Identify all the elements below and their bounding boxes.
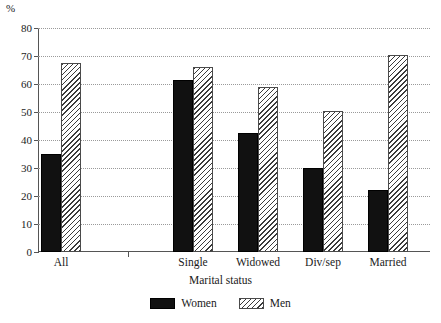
bar-married-women bbox=[368, 190, 388, 252]
y-axis-tick-mark bbox=[34, 28, 38, 29]
gridline bbox=[38, 28, 430, 30]
x-axis-label-all: All bbox=[54, 256, 69, 269]
gridline bbox=[38, 140, 430, 142]
y-axis-tick-label: 30 bbox=[21, 163, 32, 174]
y-axis-tick-label: 10 bbox=[21, 219, 32, 230]
legend-label-women: Women bbox=[181, 297, 216, 310]
y-axis-tick-label: 0 bbox=[27, 247, 33, 258]
y-axis-tick-mark bbox=[34, 252, 38, 253]
group-separator-tick bbox=[128, 252, 129, 257]
y-axis-tick-mark bbox=[34, 56, 38, 57]
bar-all-men bbox=[61, 63, 81, 252]
y-axis-unit-label: % bbox=[6, 2, 15, 14]
bar-single-women bbox=[173, 80, 193, 252]
x-axis-label-married: Married bbox=[369, 256, 406, 269]
y-axis-tick-mark bbox=[34, 140, 38, 141]
bar-all-women bbox=[41, 154, 61, 252]
bar-single-men bbox=[193, 67, 213, 252]
y-axis-tick-mark bbox=[34, 84, 38, 85]
bar-div-sep-women bbox=[303, 168, 323, 252]
gridline bbox=[38, 56, 430, 58]
x-axis-label-widowed: Widowed bbox=[236, 256, 280, 269]
y-axis-tick-mark bbox=[34, 168, 38, 169]
legend-item-men: Men bbox=[239, 297, 291, 310]
y-axis-tick-label: 80 bbox=[21, 23, 32, 34]
bar-married-men bbox=[388, 55, 408, 252]
gridline bbox=[38, 112, 430, 114]
chart-legend: Women Men bbox=[0, 297, 441, 310]
y-axis-tick-label: 50 bbox=[21, 107, 32, 118]
bar-widowed-men bbox=[258, 87, 278, 252]
bar-widowed-women bbox=[238, 133, 258, 252]
bar-div-sep-men bbox=[323, 111, 343, 252]
x-axis-label-single: Single bbox=[178, 256, 207, 269]
legend-swatch-women-icon bbox=[150, 298, 175, 309]
x-axis-title: Marital status bbox=[0, 274, 441, 287]
y-axis-tick-label: 60 bbox=[21, 79, 32, 90]
y-axis-tick-label: 20 bbox=[21, 191, 32, 202]
legend-label-men: Men bbox=[270, 297, 291, 310]
gridline bbox=[38, 84, 430, 86]
legend-swatch-men-icon bbox=[239, 298, 264, 309]
x-axis-label-div-sep: Div/sep bbox=[305, 256, 341, 269]
y-axis-tick-mark bbox=[34, 224, 38, 225]
y-axis-tick-mark bbox=[34, 112, 38, 113]
y-axis-tick-label: 40 bbox=[21, 135, 32, 146]
y-axis-tick-label: 70 bbox=[21, 51, 32, 62]
plot-area: 01020304050607080 bbox=[38, 28, 430, 252]
bar-chart: % 01020304050607080 AllSingleWidowedDiv/… bbox=[0, 0, 441, 323]
gridline bbox=[38, 168, 430, 170]
legend-item-women: Women bbox=[150, 297, 216, 310]
y-axis-tick-mark bbox=[34, 196, 38, 197]
